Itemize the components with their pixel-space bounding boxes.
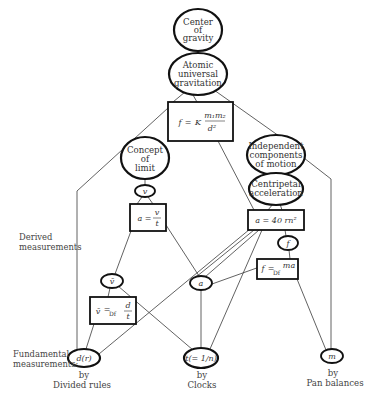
svg-text:Fundamental: Fundamental (13, 349, 70, 359)
svg-text:a = 40 rn²: a = 40 rn² (255, 216, 296, 225)
node-independent-components: Independent components of motion (247, 135, 305, 175)
node-atomic-universal-gravitation: Atomic universal gravitation (169, 53, 227, 95)
node-force: f (278, 236, 298, 250)
edge-centripetal-formula-distance (99, 229, 250, 354)
svg-text:=: = (185, 118, 192, 127)
svg-text:Clocks: Clocks (188, 380, 217, 390)
node-velocity: v (135, 185, 155, 197)
svg-text:v̄: v̄ (110, 277, 115, 286)
svg-text:Pan balances: Pan balances (306, 378, 363, 388)
svg-text:by: by (197, 370, 208, 380)
svg-text:d: d (125, 301, 130, 310)
node-acceleration: a (190, 276, 212, 290)
caption-pan-balances: by Pan balances (306, 368, 363, 388)
svg-text:limit: limit (135, 163, 155, 173)
svg-text:v̄: v̄ (96, 307, 101, 316)
node-center-of-gravity: Center of gravity (174, 9, 222, 51)
svg-text:Df: Df (273, 269, 281, 276)
svg-text:a: a (138, 214, 143, 223)
svg-text:m₁m₂: m₁m₂ (204, 111, 226, 120)
svg-text:by: by (328, 368, 339, 378)
node-mean-velocity-formula: v̄ = Df d t (90, 297, 136, 324)
svg-text:v: v (155, 208, 160, 217)
svg-text:t(= 1/n): t(= 1/n) (185, 354, 217, 363)
edge-velocity-accelformula-a (137, 197, 142, 204)
node-gravitation-formula: f = K m₁m₂ d² (168, 102, 233, 141)
edge-accelformula-meanvelocity (115, 231, 131, 274)
svg-text:Divided rules: Divided rules (53, 380, 111, 390)
edge-forceformula-mass (297, 279, 326, 350)
label-fundamental-measurements: Fundamental measurements: (13, 349, 78, 369)
concept-map-diagram: Center of gravity Atomic universal gravi… (0, 0, 372, 401)
svg-text:gravity: gravity (183, 33, 214, 43)
svg-text:m: m (328, 352, 336, 361)
svg-text:a: a (199, 279, 204, 288)
svg-text:d(r): d(r) (76, 354, 91, 363)
node-concept-of-limit: Concept of limit (121, 137, 169, 179)
node-mass: m (321, 349, 343, 363)
svg-text:Df: Df (109, 310, 117, 317)
label-derived-measurements: Derived measurements (19, 232, 82, 252)
edge-centripetal-formula-time (210, 230, 262, 349)
edge-atomic-formula-a (173, 92, 185, 102)
edge-meanvelocityformula-distance (86, 324, 94, 349)
svg-text:d²: d² (208, 124, 216, 133)
node-mean-velocity: v̄ (101, 274, 123, 288)
svg-text:measurements: measurements (19, 242, 82, 252)
node-acceleration-formula: a = v t (130, 204, 166, 231)
svg-text:of motion: of motion (255, 159, 297, 169)
edge-meanvelocity-formula (108, 288, 110, 297)
node-centripetal-formula: a = 40 rn² (248, 210, 304, 230)
edge-velocity-accelformula-b (148, 197, 153, 204)
svg-text:acceleration: acceleration (249, 188, 303, 198)
node-force-formula: f = Df ma (257, 259, 298, 279)
edge-independent-mass (304, 158, 331, 349)
svg-text:=: = (145, 214, 152, 223)
svg-text:ma: ma (283, 261, 296, 270)
caption-clocks: by Clocks (188, 370, 217, 390)
node-time: t(= 1/n) (184, 348, 218, 368)
svg-text:Derived: Derived (19, 232, 53, 242)
edge-centripetal-formula-acceleration-a (196, 230, 254, 277)
svg-text:v: v (143, 187, 148, 196)
node-centripetal-acceleration: Centripetal acceleration (249, 173, 303, 205)
edge-force-forceformula (289, 250, 290, 259)
svg-text:K: K (194, 118, 202, 127)
svg-text:by: by (79, 370, 90, 380)
caption-divided-rules: by Divided rules (53, 370, 111, 390)
edge-accelformula-acceleration (166, 225, 199, 276)
svg-text:gravitation: gravitation (174, 78, 222, 88)
svg-text:measurements:: measurements: (13, 359, 78, 369)
